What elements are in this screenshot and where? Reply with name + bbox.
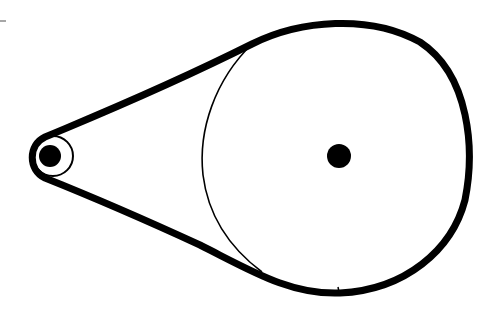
belt [32, 23, 469, 293]
large-pulley-inner-rim [202, 44, 262, 272]
belt-pulley-diagram [0, 0, 487, 320]
large-pulley-hub [327, 144, 351, 168]
diagram-canvas: small pulley large pulley belt [0, 0, 487, 320]
belt-tick [338, 287, 339, 292]
small-pulley-hub [39, 145, 61, 167]
